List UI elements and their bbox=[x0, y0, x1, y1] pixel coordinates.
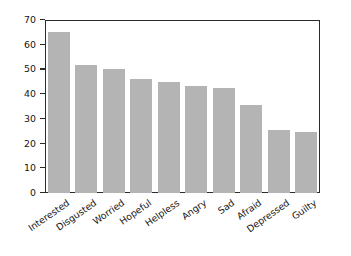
bar bbox=[295, 132, 317, 193]
x-axis-labels: InterestedDisgustedWorriedHopefulHelples… bbox=[45, 193, 320, 256]
bar-chart: Percent of respondents 010203040506070 I… bbox=[0, 0, 351, 256]
bar bbox=[240, 105, 262, 193]
bars-layer bbox=[45, 20, 320, 193]
y-axis-tick-label: 10 bbox=[2, 162, 36, 174]
y-axis-tick: 0 bbox=[0, 187, 45, 199]
bar bbox=[268, 130, 290, 193]
bar bbox=[185, 86, 207, 194]
bar-slot bbox=[210, 20, 238, 193]
y-axis-tick: 10 bbox=[0, 162, 45, 174]
bar bbox=[103, 69, 125, 193]
bar bbox=[75, 65, 97, 194]
y-axis-tick-label: 70 bbox=[2, 14, 36, 26]
bar-slot bbox=[45, 20, 73, 193]
bar bbox=[213, 88, 235, 193]
y-axis-tick: 70 bbox=[0, 14, 45, 26]
bar-slot bbox=[183, 20, 211, 193]
bar-slot bbox=[265, 20, 293, 193]
y-axis-tick-label: 20 bbox=[2, 138, 36, 150]
y-axis-tick-label: 60 bbox=[2, 39, 36, 51]
y-axis-tick: 50 bbox=[0, 63, 45, 75]
bar bbox=[130, 79, 152, 193]
bar bbox=[48, 32, 70, 193]
y-axis-tick: 30 bbox=[0, 113, 45, 125]
y-axis-tick-label: 50 bbox=[2, 63, 36, 75]
y-axis-tick: 40 bbox=[0, 88, 45, 100]
bar-slot bbox=[100, 20, 128, 193]
bar-slot bbox=[293, 20, 321, 193]
y-axis-tick: 20 bbox=[0, 138, 45, 150]
y-axis-tick-label: 40 bbox=[2, 88, 36, 100]
bar-slot bbox=[128, 20, 156, 193]
bar-slot bbox=[73, 20, 101, 193]
bar-slot bbox=[155, 20, 183, 193]
y-axis-tick: 60 bbox=[0, 39, 45, 51]
y-axis-tick-label: 30 bbox=[2, 113, 36, 125]
bar-slot bbox=[238, 20, 266, 193]
y-axis-tick-label: 0 bbox=[2, 187, 36, 199]
bar bbox=[158, 82, 180, 193]
